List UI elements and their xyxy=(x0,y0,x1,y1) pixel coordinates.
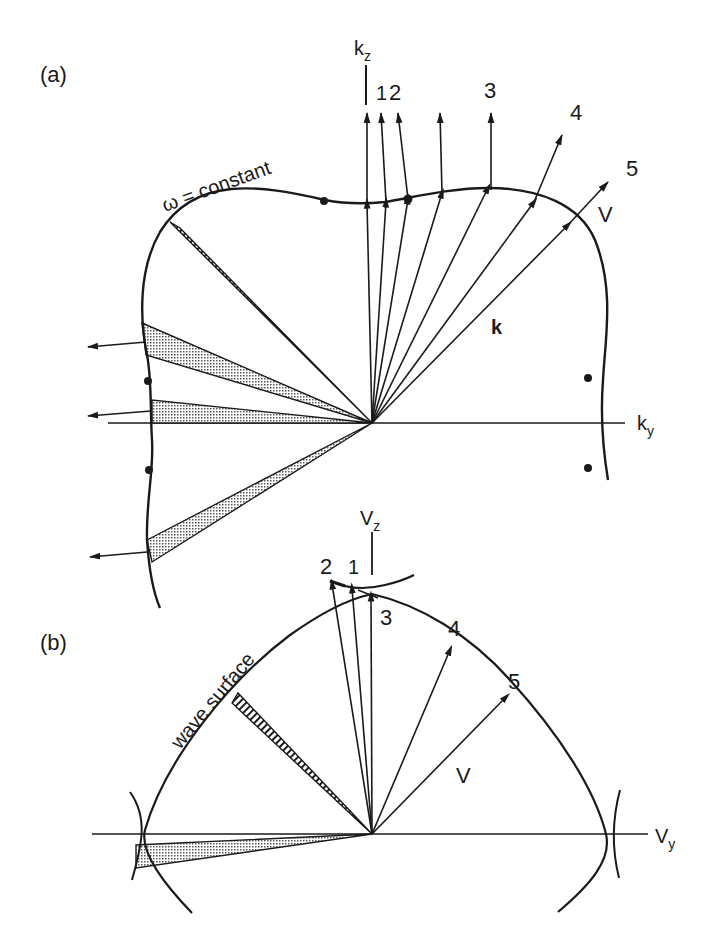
point-label-4: 4 xyxy=(570,100,582,125)
curve-dot xyxy=(144,377,152,385)
point-label-1: 1 xyxy=(376,82,387,104)
vy-axis-label: Vy xyxy=(655,825,675,852)
curve-dot xyxy=(584,374,592,382)
point-label-3: 3 xyxy=(484,78,496,103)
panel-a: (a) kz ky ω = constant xyxy=(40,37,654,608)
stippled-wedge-b xyxy=(136,834,372,868)
hatched-wedge-b xyxy=(232,693,372,834)
panel-a-label: (a) xyxy=(40,62,67,87)
vector-V-label-b: V xyxy=(456,763,471,788)
point-label-5: 5 xyxy=(626,156,638,181)
point-label-1b: 1 xyxy=(348,556,359,578)
vector-k-label: k xyxy=(491,316,503,338)
point-label-3b: 3 xyxy=(380,605,392,630)
curve-dot xyxy=(584,464,592,472)
vector-V-label-a: V xyxy=(598,202,613,227)
stippled-wedge-3 xyxy=(147,423,372,562)
curve-dot xyxy=(145,466,153,474)
panel-b-label: (b) xyxy=(40,630,67,655)
vz-axis-label: Vz xyxy=(360,507,380,534)
point-label-5b: 5 xyxy=(508,669,520,694)
point-label-4b: 4 xyxy=(448,616,460,641)
k-vectors xyxy=(367,188,568,423)
point-label-2: 2 xyxy=(389,80,401,105)
wave-diagram: (a) kz ky ω = constant xyxy=(0,0,711,937)
wave-surface-curve xyxy=(144,594,607,913)
v-vectors xyxy=(332,584,506,834)
ky-axis-label: ky xyxy=(637,412,654,439)
omega-constant-text: ω = constant xyxy=(159,156,274,216)
omega-constant-curve xyxy=(142,188,608,608)
kz-axis-label: kz xyxy=(354,37,371,64)
panel-b: (b) Vz Vy wave surface 2 1 3 4 5 xyxy=(40,507,675,913)
point-label-2b: 2 xyxy=(320,554,332,579)
curve-dot xyxy=(320,197,328,205)
